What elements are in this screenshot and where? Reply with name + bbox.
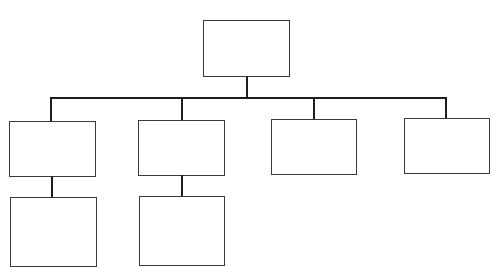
child-node-2 (138, 120, 225, 176)
root-connector (246, 76, 248, 99)
child-4-connector (445, 98, 447, 119)
grandchild-2-connector (181, 175, 183, 197)
horizontal-bus-connector (50, 97, 447, 99)
root-node (203, 20, 290, 77)
grandchild-1-connector (51, 176, 53, 198)
child-1-connector (50, 98, 52, 122)
child-node-4 (404, 118, 490, 174)
child-node-1 (9, 121, 96, 177)
grandchild-node-2 (139, 196, 225, 266)
child-2-connector (181, 98, 183, 121)
grandchild-node-1 (10, 197, 97, 267)
child-3-connector (313, 98, 315, 120)
child-node-3 (271, 119, 357, 175)
